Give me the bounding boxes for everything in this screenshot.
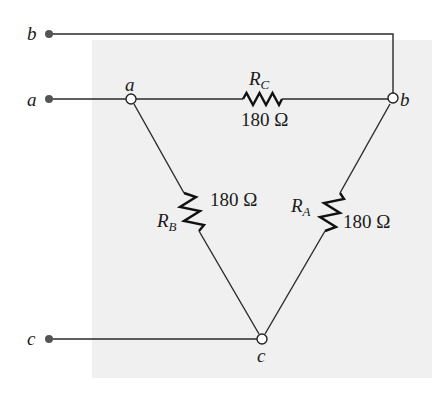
- resistor-rc-value: 180 Ω: [241, 109, 288, 130]
- terminal-a-label: a: [27, 89, 37, 110]
- terminal-b-label: b: [27, 23, 37, 44]
- resistor-ra-value: 180 Ω: [343, 211, 390, 232]
- node-a-label: a: [125, 74, 135, 95]
- resistor-rb-value: 180 Ω: [210, 189, 257, 210]
- node-c-label: c: [257, 345, 266, 366]
- node-b: [388, 93, 398, 103]
- terminal-b-dot: [45, 30, 53, 38]
- terminal-c-dot: [45, 335, 53, 343]
- terminal-c-label: c: [27, 328, 36, 349]
- terminal-a-dot: [45, 95, 53, 103]
- node-a: [126, 94, 136, 104]
- delta-circuit-diagram: b a c a b c RC 180 Ω 180 Ω RB RA 180 Ω: [0, 0, 446, 394]
- node-b-label: b: [400, 89, 410, 110]
- node-c: [257, 334, 267, 344]
